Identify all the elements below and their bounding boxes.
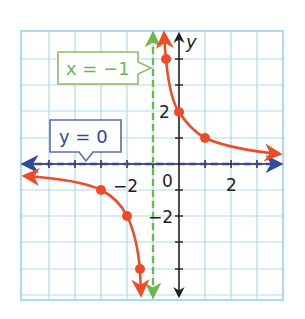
hyperbola-graph: y 2 −2 −2 0 2 x = −1 y = 0 — [0, 0, 305, 319]
point-1-1 — [200, 133, 210, 143]
x-tick-label-0: 0 — [162, 171, 173, 191]
callout-horizontal-text: y = 0 — [59, 126, 108, 147]
x-tick-label-neg2: −2 — [113, 176, 138, 196]
y-tick-label-2: 2 — [159, 102, 170, 122]
y-axis-label: y — [185, 31, 197, 52]
y-tick-label-neg2: −2 — [148, 207, 173, 227]
point-neg2-neg2 — [122, 211, 132, 221]
callout-horizontal-asymptote: y = 0 — [50, 120, 121, 161]
point-neg3-neg1 — [96, 185, 106, 195]
curve-right-branch — [164, 34, 279, 154]
callout-vertical-text: x = −1 — [66, 58, 130, 79]
point-0-2 — [174, 107, 184, 117]
point-neg0.5-4 — [161, 54, 171, 64]
callout-vertical-asymptote: x = −1 — [58, 52, 151, 84]
x-tick-label-2: 2 — [226, 175, 237, 195]
point-neg1.5-neg4 — [135, 264, 145, 274]
